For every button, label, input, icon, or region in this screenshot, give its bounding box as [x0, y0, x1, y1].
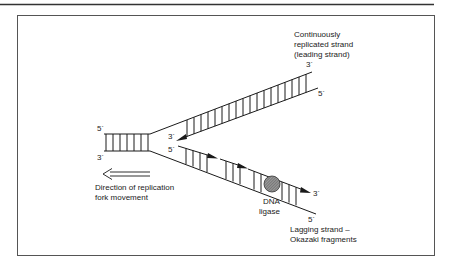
lagging-strand-arm [150, 146, 316, 214]
lagging-strand-caption-line-2: Okazaki fragments [290, 235, 357, 244]
parent-3-prime-label: 3´ [97, 153, 104, 162]
dna-ligase-label-line-2: ligase [259, 207, 280, 216]
parent-duplex [104, 134, 150, 151]
lagging-new-3-prime-label: 3´ [313, 189, 320, 198]
fork-direction-arrow [103, 169, 150, 180]
leading-strand-arrowhead [176, 134, 187, 141]
lagging-strand-caption-line-1: Lagging strand – [290, 225, 350, 234]
leading-outer-3-prime-label: 3´ [306, 60, 313, 69]
lagging-outer-5-prime-label: 5´ [308, 215, 315, 224]
parent-5-prime-label: 5´ [97, 124, 104, 133]
direction-label-line-1: Direction of replication [95, 183, 174, 192]
okazaki-fragment-1-arrowhead [207, 153, 218, 159]
okazaki-fragment-3-arrowhead [300, 187, 311, 193]
leading-strand-caption-line-2: replicated strand [294, 40, 353, 49]
replication-fork-diagram: 5´ 3´ 3´ 5´ 3´ [0, 0, 451, 269]
dna-ligase-enzyme [264, 176, 280, 192]
leading-inner-5-prime-label: 5´ [318, 89, 325, 98]
leading-strand-arm [150, 72, 318, 139]
lagging-new-5-prime-label: 5´ [168, 145, 175, 154]
leading-new-3-prime-label: 3´ [168, 132, 175, 141]
okazaki-fragment-2-arrowhead [237, 163, 248, 169]
figure-frame [18, 16, 435, 256]
dna-ligase-label-line-1: DNA [263, 197, 281, 206]
direction-label-line-2: fork movement [95, 193, 149, 202]
leading-strand-caption-line-1: Continuously [294, 30, 340, 39]
leading-strand-caption-line-3: (leading strand) [294, 50, 350, 59]
